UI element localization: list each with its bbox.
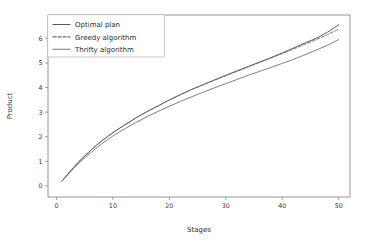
y-axis-label: Product (6, 92, 14, 119)
legend-label: Optimal plan (75, 21, 120, 29)
legend-label: Greedy algorithm (75, 34, 137, 42)
x-tick-label: 10 (109, 202, 117, 210)
y-tick-label: 0 (38, 182, 42, 190)
y-tick-label: 4 (38, 84, 42, 92)
x-tick-label: 30 (222, 202, 230, 210)
x-axis-label: Stages (187, 226, 211, 234)
y-tick-label: 6 (38, 35, 42, 43)
x-tick-label: 20 (165, 202, 173, 210)
y-tick-label: 2 (38, 133, 42, 141)
legend-label: Thrifty algorithm (74, 46, 134, 54)
chart-figure: 01020304050 0123456 Stages Product Optim… (0, 0, 372, 242)
x-tick-label: 50 (335, 202, 343, 210)
y-tick-label: 5 (38, 59, 42, 67)
y-axis-ticks: 0123456 (38, 35, 48, 191)
series-line-thrifty-algorithm (62, 40, 339, 181)
y-tick-label: 3 (38, 109, 42, 117)
chart-legend[interactable]: Optimal planGreedy algorithmThrifty algo… (48, 15, 165, 58)
x-axis-ticks: 01020304050 (54, 197, 342, 210)
y-tick-label: 1 (38, 158, 42, 166)
x-tick-label: 0 (54, 202, 58, 210)
x-tick-label: 40 (278, 202, 286, 210)
line-chart-canvas: 01020304050 0123456 Stages Product Optim… (0, 0, 372, 242)
